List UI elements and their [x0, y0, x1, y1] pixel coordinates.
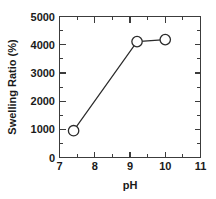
- x-tick-label-11: 11: [195, 160, 207, 172]
- y-tick-label-2000: 2000: [31, 95, 55, 107]
- x-axis-top-ticks: [60, 17, 201, 23]
- series-line-path: [74, 40, 166, 131]
- data-point-marker: [160, 34, 170, 44]
- plot-frame: [60, 17, 201, 158]
- data-point-marker: [68, 126, 78, 136]
- y-tick-label-3000: 3000: [31, 67, 55, 79]
- y-tick-label-4000: 4000: [31, 39, 55, 51]
- y-axis-title: Swelling Ratio (%): [6, 39, 18, 135]
- y-tick-label-0: 0: [49, 152, 55, 164]
- data-series-swelling-ratio: [68, 34, 170, 135]
- data-point-marker: [132, 36, 142, 46]
- x-tick-label-7: 7: [56, 160, 62, 172]
- x-axis-title: pH: [123, 179, 138, 191]
- x-tick-label-10: 10: [159, 160, 171, 172]
- y-axis-right-ticks: [195, 17, 201, 158]
- x-tick-label-9: 9: [127, 160, 133, 172]
- x-tick-label-8: 8: [92, 160, 98, 172]
- y-tick-label-5000: 5000: [31, 11, 55, 23]
- x-axis-major-ticks: [60, 152, 201, 158]
- axes-box: [60, 17, 201, 158]
- y-tick-labels: 0 1000 2000 3000 4000 5000: [31, 11, 55, 164]
- swelling-ratio-vs-ph-chart: 0 1000 2000 3000 4000 5000 7 8 9 10 11 p…: [0, 0, 216, 199]
- y-tick-label-1000: 1000: [31, 123, 55, 135]
- chart-figure: 0 1000 2000 3000 4000 5000 7 8 9 10 11 p…: [0, 0, 216, 199]
- x-tick-labels: 7 8 9 10 11: [56, 160, 206, 172]
